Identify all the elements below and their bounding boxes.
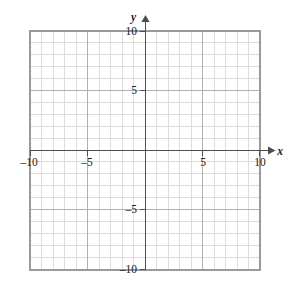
graph-canvas: –10 –5 5 10 10 5 –5 –10 y x: [0, 0, 294, 294]
y-axis-label: y: [129, 11, 137, 24]
x-axis-label: x: [276, 145, 283, 157]
x-tick-label-neg5: –5: [80, 156, 93, 168]
x-tick-label-5: 5: [200, 156, 206, 168]
coordinate-grid-figure: –10 –5 5 10 10 5 –5 –10 y x: [0, 0, 294, 294]
x-tick-label-10: 10: [254, 156, 266, 168]
y-tick-label-neg10: –10: [119, 263, 138, 275]
y-tick-label-5: 5: [131, 84, 137, 96]
y-tick-label-10: 10: [126, 25, 138, 37]
x-tick-label-neg10: –10: [19, 156, 38, 168]
figure-background: [0, 0, 294, 294]
y-tick-label-neg5: –5: [125, 203, 138, 215]
